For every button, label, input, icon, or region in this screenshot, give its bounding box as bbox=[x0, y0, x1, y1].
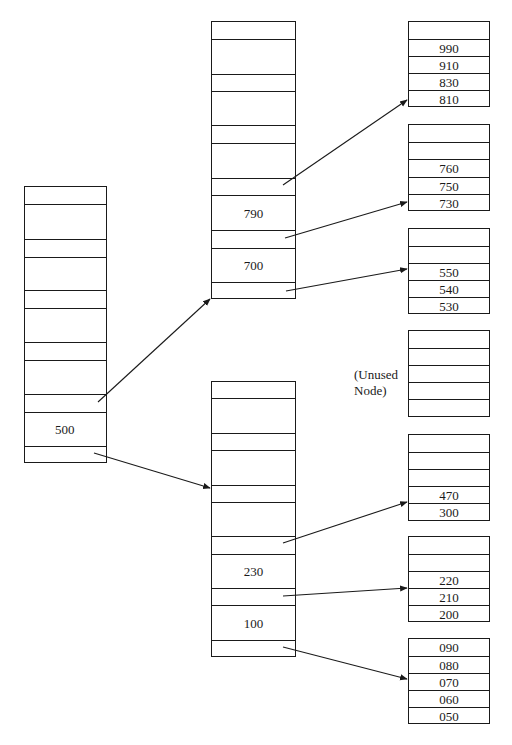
internal-key-row: 100 bbox=[212, 605, 295, 640]
leaf-key-row: 090 bbox=[409, 639, 489, 656]
leaf-key: 550 bbox=[439, 266, 459, 279]
leaf-key-row: 810 bbox=[409, 90, 489, 107]
internal-node-upper: 790 700 bbox=[211, 21, 296, 299]
node-row bbox=[25, 446, 106, 463]
leaf-key-row: 210 bbox=[409, 588, 489, 605]
root-key-0: 500 bbox=[55, 423, 75, 436]
leaf-key-row: 750 bbox=[409, 177, 489, 194]
node-row bbox=[409, 452, 489, 469]
arrow-lower-to-leaf6 bbox=[283, 588, 407, 596]
leaf-node: 550 540 530 bbox=[408, 228, 490, 314]
node-row bbox=[25, 308, 106, 342]
arrow-lower-to-leaf7 bbox=[283, 647, 407, 679]
internal-key: 700 bbox=[244, 259, 264, 272]
node-row bbox=[212, 143, 295, 178]
arrow-lower-to-leaf5 bbox=[283, 502, 407, 543]
node-row bbox=[212, 22, 295, 39]
node-row bbox=[212, 485, 295, 502]
node-row bbox=[409, 348, 489, 365]
node-row bbox=[409, 365, 489, 382]
leaf-key-row: 080 bbox=[409, 656, 489, 673]
node-row bbox=[212, 230, 295, 248]
leaf-key-row: 990 bbox=[409, 39, 489, 56]
leaf-key: 810 bbox=[439, 93, 459, 106]
leaf-key: 080 bbox=[439, 659, 459, 672]
node-row bbox=[212, 74, 295, 91]
arrow-upper-to-leaf3 bbox=[286, 269, 407, 291]
leaf-key-row: 470 bbox=[409, 486, 489, 503]
node-row bbox=[409, 435, 489, 452]
leaf-key-row: 540 bbox=[409, 280, 489, 297]
node-row bbox=[212, 640, 295, 657]
internal-key: 230 bbox=[244, 565, 264, 578]
leaf-key: 730 bbox=[439, 197, 459, 210]
node-row bbox=[25, 342, 106, 360]
node-row bbox=[25, 290, 106, 308]
leaf-key-row: 760 bbox=[409, 159, 489, 177]
arrow-upper-to-leaf1 bbox=[283, 100, 407, 185]
root-key-row: 500 bbox=[25, 412, 106, 446]
leaf-key: 750 bbox=[439, 180, 459, 193]
leaf-key: 070 bbox=[439, 676, 459, 689]
leaf-key: 540 bbox=[439, 283, 459, 296]
leaf-key: 050 bbox=[439, 710, 459, 723]
node-row bbox=[25, 187, 106, 204]
node-row bbox=[212, 178, 295, 195]
leaf-key-row: 060 bbox=[409, 690, 489, 707]
node-row bbox=[212, 433, 295, 450]
node-row bbox=[409, 125, 489, 142]
leaf-key: 470 bbox=[439, 489, 459, 502]
node-row bbox=[212, 398, 295, 433]
leaf-key: 220 bbox=[439, 574, 459, 587]
root-node: 500 bbox=[24, 186, 107, 463]
leaf-key: 090 bbox=[439, 641, 459, 654]
node-row bbox=[25, 204, 106, 239]
node-row bbox=[212, 91, 295, 125]
node-row bbox=[409, 331, 489, 348]
leaf-key: 300 bbox=[439, 506, 459, 519]
node-row bbox=[409, 142, 489, 159]
node-row bbox=[212, 39, 295, 74]
leaf-key: 990 bbox=[439, 42, 459, 55]
leaf-key-row: 730 bbox=[409, 194, 489, 211]
unused-node-label-line2: Node) bbox=[354, 383, 387, 399]
leaf-key: 760 bbox=[439, 162, 459, 175]
leaf-key-row: 910 bbox=[409, 56, 489, 73]
node-row bbox=[212, 125, 295, 143]
node-row bbox=[212, 450, 295, 485]
unused-node-label-line1: (Unused bbox=[354, 367, 398, 383]
leaf-node: 090 080 070 060 050 bbox=[408, 638, 490, 724]
leaf-key: 060 bbox=[439, 693, 459, 706]
node-row bbox=[409, 229, 489, 246]
internal-key-row: 230 bbox=[212, 554, 295, 588]
node-row bbox=[25, 394, 106, 412]
node-row bbox=[409, 399, 489, 417]
node-row bbox=[409, 22, 489, 39]
leaf-node: 990 910 830 810 bbox=[408, 21, 490, 107]
leaf-key: 210 bbox=[439, 591, 459, 604]
node-row bbox=[25, 360, 106, 394]
node-row bbox=[409, 246, 489, 263]
internal-node-lower: 230 100 bbox=[211, 381, 296, 657]
leaf-node: 220 210 200 bbox=[408, 536, 490, 622]
internal-key: 100 bbox=[244, 617, 264, 630]
node-row bbox=[409, 469, 489, 486]
node-row bbox=[25, 257, 106, 290]
leaf-key-row: 050 bbox=[409, 707, 489, 724]
node-row bbox=[212, 282, 295, 299]
node-row bbox=[409, 554, 489, 571]
leaf-node: 470 300 bbox=[408, 434, 490, 521]
leaf-key-row: 300 bbox=[409, 503, 489, 521]
leaf-node: 760 750 730 bbox=[408, 124, 490, 211]
node-row bbox=[25, 239, 106, 257]
node-row bbox=[212, 382, 295, 398]
leaf-key-row: 530 bbox=[409, 297, 489, 314]
internal-key-row: 700 bbox=[212, 248, 295, 282]
node-row bbox=[212, 536, 295, 554]
node-row bbox=[409, 537, 489, 554]
node-row bbox=[212, 588, 295, 605]
leaf-key: 200 bbox=[439, 608, 459, 621]
leaf-key: 910 bbox=[439, 59, 459, 72]
leaf-key-row: 550 bbox=[409, 263, 489, 280]
internal-key-row: 790 bbox=[212, 195, 295, 230]
